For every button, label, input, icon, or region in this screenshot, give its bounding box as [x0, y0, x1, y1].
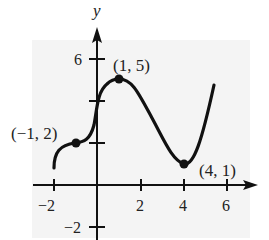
x-tick-label: 2 [136, 197, 144, 214]
point-marker [115, 75, 124, 84]
y-tick-label: −2 [64, 219, 81, 236]
x-tick-label: −2 [38, 197, 55, 214]
y-axis-label: y [91, 1, 101, 20]
point-label: (−1, 2) [11, 124, 57, 143]
function-curve [54, 79, 214, 168]
point-label: (4, 1) [199, 161, 236, 180]
point-label: (1, 5) [113, 56, 150, 75]
x-tick-label: 6 [222, 197, 230, 214]
point-marker [72, 139, 81, 148]
point-marker [180, 160, 189, 169]
y-tick-label: 6 [74, 51, 82, 68]
x-tick-label: 4 [179, 197, 187, 214]
function-graph: −2 2 4 6 6 −2 y (−1, 2) (1, 5) (4, 1) [0, 0, 269, 240]
